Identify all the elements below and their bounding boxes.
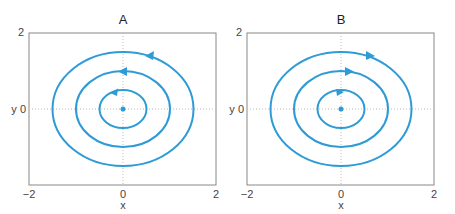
panel-a: A 2 0 y −2 0 2 x	[11, 12, 219, 211]
panel-b-fixed-point	[339, 107, 344, 112]
panel-a-ytick-0: 0	[20, 103, 26, 115]
panel-b-title: B	[337, 12, 346, 27]
panel-b-ytick-2: 2	[236, 26, 242, 38]
panel-a-fixed-point	[121, 107, 126, 112]
panel-b-ylabel: y	[229, 103, 235, 115]
arrow-icon	[118, 67, 127, 76]
panel-a-arrows	[110, 51, 154, 96]
arrow-icon	[345, 67, 354, 76]
panel-a-ytick-2: 2	[18, 26, 24, 38]
panel-a-title: A	[119, 12, 128, 27]
panel-a-xlabel: x	[120, 199, 126, 211]
panel-a-ylabel: y	[11, 103, 17, 115]
panel-a-xtick-max: 2	[213, 188, 219, 200]
panel-b-xtick-min: −2	[241, 188, 254, 200]
phase-portraits: A 2 0 y −2 0 2 x B	[0, 0, 455, 214]
arrow-icon	[145, 51, 154, 60]
panel-b: B 2 0 y −2 0 2 x	[229, 12, 437, 211]
panel-b-xlabel: x	[338, 199, 344, 211]
panel-a-xtick-min: −2	[23, 188, 36, 200]
panel-b-xtick-max: 2	[431, 188, 437, 200]
panel-b-ytick-0: 0	[238, 103, 244, 115]
